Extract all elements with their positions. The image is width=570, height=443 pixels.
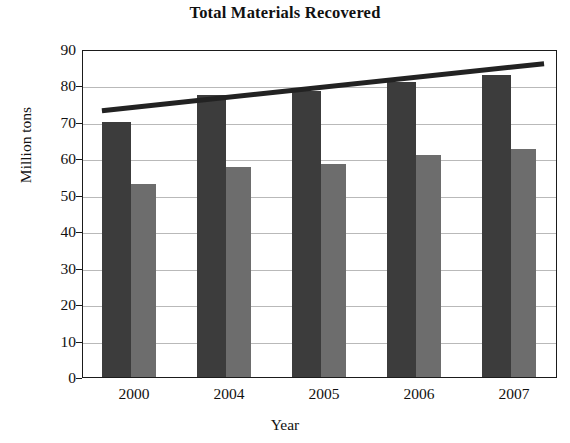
bar [131, 184, 156, 377]
bar [321, 164, 346, 377]
y-tick-label: 10 [34, 334, 76, 350]
x-tick-label: 2007 [469, 386, 559, 402]
bar [292, 91, 321, 377]
bar [102, 122, 131, 377]
bar [482, 75, 511, 377]
plot-area [82, 50, 557, 378]
x-tick-label: 2004 [184, 386, 274, 402]
y-tick-label: 20 [34, 297, 76, 313]
y-tick-label: 30 [34, 261, 76, 277]
x-tick-label: 2005 [279, 386, 369, 402]
y-tick-mark [76, 378, 82, 379]
bar [226, 167, 251, 377]
bar [197, 95, 226, 377]
x-tick-label: 2006 [374, 386, 464, 402]
y-tick-label: 50 [34, 188, 76, 204]
x-tick-label: 2000 [89, 386, 179, 402]
y-tick-label: 70 [34, 115, 76, 131]
y-tick-label: 40 [34, 224, 76, 240]
y-tick-label: 80 [34, 79, 76, 95]
bar [387, 82, 416, 377]
chart-container: Total Materials Recovered Million tons 0… [0, 0, 570, 443]
x-axis-label: Year [0, 416, 570, 434]
bar [416, 155, 441, 377]
y-tick-label: 60 [34, 152, 76, 168]
bar [511, 149, 536, 377]
y-tick-label: 90 [34, 42, 76, 58]
y-tick-label: 0 [34, 370, 76, 386]
